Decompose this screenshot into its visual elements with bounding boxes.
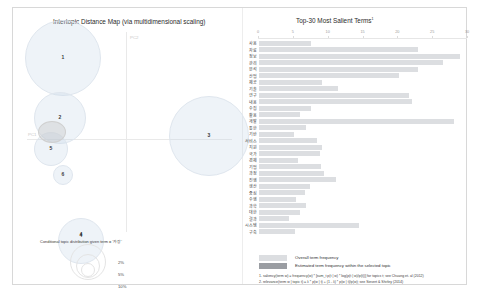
overall-frequency-bar[interactable] xyxy=(259,132,294,137)
marginal-size-label-2pct: 2% xyxy=(118,260,124,265)
axis-tick-label: 0 xyxy=(257,30,259,34)
pc2-axis-label: PC2 xyxy=(130,35,139,40)
marginal-size-label-5pct: 5% xyxy=(118,272,124,277)
slider-topic-number: 4 xyxy=(26,232,136,237)
footnote-2: 2. relevance(term w | topic t) = λ * p(w… xyxy=(259,279,424,285)
overall-frequency-bar[interactable] xyxy=(259,197,296,202)
topic-label-2: 2 xyxy=(54,114,66,120)
marginal-circle-2pct xyxy=(81,263,95,277)
overall-frequency-bar[interactable] xyxy=(259,47,418,52)
overall-frequency-bar[interactable] xyxy=(259,145,322,150)
selected-term-lens xyxy=(38,121,66,143)
overall-frequency-bar[interactable] xyxy=(259,138,317,143)
overall-frequency-bar[interactable] xyxy=(259,164,321,169)
overall-frequency-bar[interactable] xyxy=(259,184,310,189)
overall-frequency-bar[interactable] xyxy=(259,41,311,46)
pc1-axis-label: PC1 xyxy=(28,132,37,137)
salient-terms-title: Top-30 Most Salient Terms1 xyxy=(296,17,374,24)
overall-frequency-bar[interactable] xyxy=(259,112,300,117)
marginal-size-label-10pct: 10% xyxy=(118,284,126,289)
axis-tick-label: 25 xyxy=(430,30,434,34)
legend-swatch-estimated xyxy=(259,263,287,269)
intertopic-distance-panel: Intertopic Distance Map (via multidimens… xyxy=(13,8,241,284)
salient-terms-bars: 사용자료정보관리분석산업제공기술연구내용수집활용개발통한기반서비스지원국가경제기… xyxy=(244,40,467,235)
ldavis-visualization: Intertopic Distance Map (via multidimens… xyxy=(0,0,479,292)
topic-label-5: 5 xyxy=(45,145,57,151)
overall-frequency-bar[interactable] xyxy=(259,67,418,72)
axis-tick-label: 15 xyxy=(360,30,364,34)
overall-frequency-bar[interactable] xyxy=(259,177,336,182)
overall-frequency-bar[interactable] xyxy=(259,171,324,176)
term-frequency-axis-rule xyxy=(258,38,467,39)
footnotes: 1. saliency(term w) = frequency(w) * [su… xyxy=(259,273,424,285)
axis-tick-label: 20 xyxy=(395,30,399,34)
pc2-axis-vertical xyxy=(126,32,127,232)
overall-frequency-bar[interactable] xyxy=(259,106,311,111)
overall-frequency-bar[interactable] xyxy=(259,158,298,163)
axis-tick-label: 5 xyxy=(292,30,294,34)
overall-frequency-bar[interactable] xyxy=(259,73,399,78)
legend-label-estimated: Estimated term frequency within the sele… xyxy=(295,263,391,268)
overall-frequency-bar[interactable] xyxy=(259,54,460,59)
term-bar-row[interactable]: 구축 xyxy=(244,229,467,236)
overall-frequency-bar[interactable] xyxy=(259,80,322,85)
overall-frequency-bar[interactable] xyxy=(259,86,338,91)
marginal-topic-distribution-legend: 2% 5% 10% xyxy=(68,244,148,292)
overall-frequency-bar[interactable] xyxy=(259,229,295,234)
legend-swatch-overall xyxy=(259,255,287,261)
salient-terms-title-text: Top-30 Most Salient Terms xyxy=(296,17,372,24)
overall-frequency-bar[interactable] xyxy=(259,216,289,221)
overall-frequency-bar[interactable] xyxy=(259,125,306,130)
axis-tick-label: 30 xyxy=(465,30,469,34)
overall-frequency-bar[interactable] xyxy=(259,93,409,98)
overall-frequency-bar[interactable] xyxy=(259,119,454,124)
salient-terms-panel: Top-30 Most Salient Terms1 051015202530 … xyxy=(244,8,467,284)
topic-label-1: 1 xyxy=(57,54,69,60)
overall-frequency-bar[interactable] xyxy=(259,223,359,228)
overall-frequency-bar[interactable] xyxy=(259,203,306,208)
overall-frequency-bar[interactable] xyxy=(259,190,305,195)
topic-label-3: 3 xyxy=(203,132,215,138)
axis-tick-label: 10 xyxy=(326,30,330,34)
legend-label-overall: Overall term frequency xyxy=(295,255,338,260)
overall-frequency-bar[interactable] xyxy=(259,151,320,156)
salient-terms-title-superscript: 1 xyxy=(372,17,374,21)
topic-label-6: 6 xyxy=(57,171,69,177)
overall-frequency-bar[interactable] xyxy=(259,60,443,65)
axis-tick-mark xyxy=(467,36,468,38)
overall-frequency-bar[interactable] xyxy=(259,99,412,104)
overall-frequency-bar[interactable] xyxy=(259,210,300,215)
